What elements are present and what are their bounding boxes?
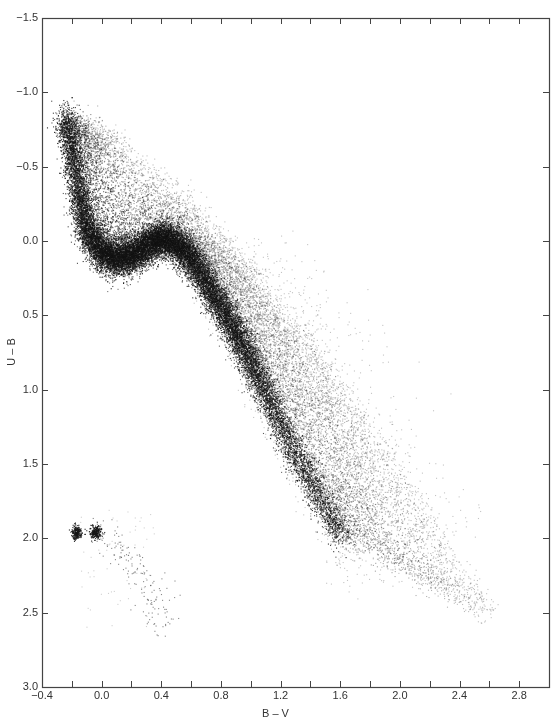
x-tick-label: 2.0 xyxy=(380,689,420,701)
x-tick-label: 0.8 xyxy=(201,689,241,701)
y-axis-title: U – B xyxy=(5,338,17,366)
x-tick-label: 0.4 xyxy=(141,689,181,701)
x-tick-label: 2.4 xyxy=(440,689,480,701)
x-tick-label: 2.8 xyxy=(499,689,539,701)
x-axis-title: B – V xyxy=(262,707,289,719)
y-tick-label: 0.5 xyxy=(4,308,38,320)
y-tick-label: 2.5 xyxy=(4,606,38,618)
y-tick-label: 1.0 xyxy=(4,383,38,395)
x-tick-label: 0.0 xyxy=(82,689,122,701)
scatter-plot-canvas xyxy=(0,0,553,726)
x-tick-label: 1.6 xyxy=(320,689,360,701)
y-tick-label: 0.0 xyxy=(4,234,38,246)
y-tick-label: 1.5 xyxy=(4,457,38,469)
x-tick-label: 1.2 xyxy=(261,689,301,701)
x-tick-label: −0.4 xyxy=(22,689,62,701)
y-tick-label: −1.5 xyxy=(4,11,38,23)
y-tick-label: 2.0 xyxy=(4,531,38,543)
y-tick-label: −1.0 xyxy=(4,85,38,97)
y-tick-label: −0.5 xyxy=(4,160,38,172)
